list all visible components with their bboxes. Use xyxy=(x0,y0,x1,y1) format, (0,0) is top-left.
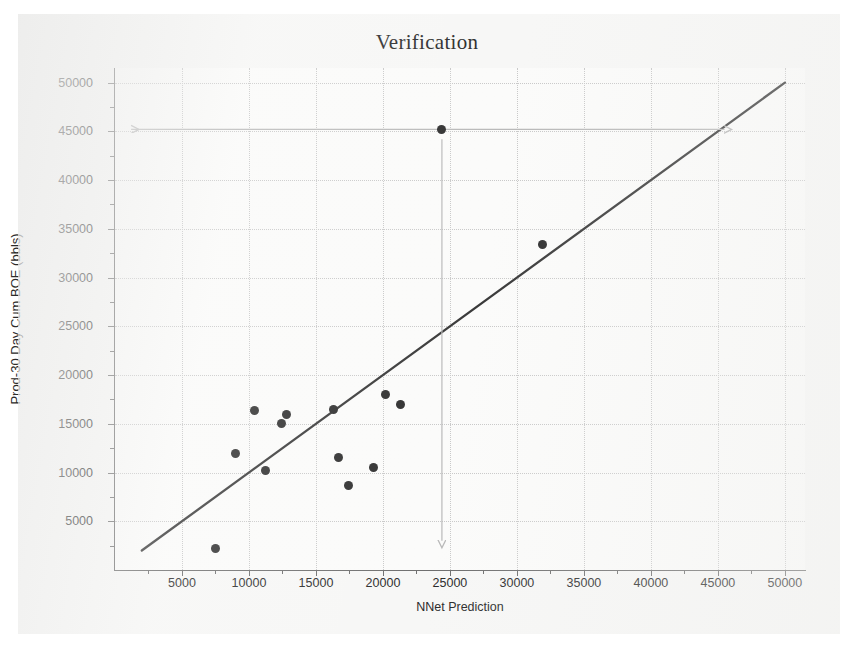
x-tick-label: 20000 xyxy=(366,576,401,590)
y-tick-label: 40000 xyxy=(58,173,93,187)
x-tick-label: 45000 xyxy=(701,576,736,590)
y-tick-label: 20000 xyxy=(58,368,93,382)
x-tick-label: 25000 xyxy=(433,576,468,590)
data-point xyxy=(538,240,547,249)
x-axis-line xyxy=(115,570,806,571)
data-point xyxy=(231,449,240,458)
x-tick-label: 50000 xyxy=(768,576,803,590)
y-tick-label: 30000 xyxy=(58,271,93,285)
plot-area: 5000100001500020000250003000035000400004… xyxy=(115,68,805,570)
y-tick-label: 35000 xyxy=(58,222,93,236)
x-tick-label: 5000 xyxy=(168,576,196,590)
x-tick-label: 15000 xyxy=(299,576,334,590)
data-point xyxy=(344,481,353,490)
y-tick-label: 5000 xyxy=(65,514,93,528)
x-tick-label: 40000 xyxy=(634,576,669,590)
data-point xyxy=(329,405,338,414)
data-point xyxy=(277,419,286,428)
data-point xyxy=(250,406,259,415)
x-tick-label: 35000 xyxy=(567,576,602,590)
chart-title: Verification xyxy=(0,30,854,55)
chart-page: Verification 50001 xyxy=(0,0,854,646)
x-tick-label: 30000 xyxy=(500,576,535,590)
y-tick-label: 25000 xyxy=(58,319,93,333)
data-point xyxy=(396,400,405,409)
y-axis-title: Prod-30 Day Cum BOE (bbls) xyxy=(8,233,23,404)
y-tick-label: 50000 xyxy=(58,76,93,90)
y-tick-label: 15000 xyxy=(58,417,93,431)
data-point xyxy=(261,466,270,475)
y-tick-label: 45000 xyxy=(58,124,93,138)
x-axis-title: NNet Prediction xyxy=(115,600,805,614)
unity-reference-line xyxy=(142,83,785,551)
data-point xyxy=(211,544,220,553)
data-point xyxy=(282,410,291,419)
chart-overlay xyxy=(115,68,805,570)
x-tick-label: 10000 xyxy=(232,576,267,590)
y-tick-label: 10000 xyxy=(58,466,93,480)
